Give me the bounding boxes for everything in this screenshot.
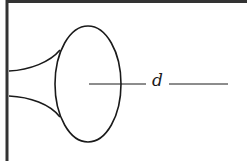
horn-flare-lower-curve [9,96,60,117]
horn-bell-diagram [0,0,247,161]
horn-flare-upper-curve [9,50,60,71]
dimension-label-d: d [150,72,165,89]
